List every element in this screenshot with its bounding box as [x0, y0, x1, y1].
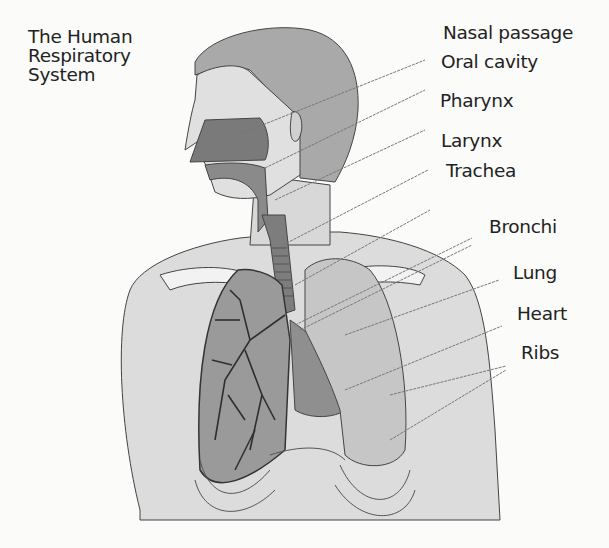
label-trachea: Trachea — [446, 160, 516, 181]
label-nasal-passage: Nasal passage — [443, 22, 573, 43]
label-bronchi: Bronchi — [489, 216, 557, 237]
label-larynx: Larynx — [441, 130, 502, 151]
label-oral-cavity: Oral cavity — [441, 51, 538, 72]
title-line-1: The Human — [28, 27, 132, 46]
label-lung: Lung — [513, 262, 557, 283]
title-line-2: Respiratory — [28, 46, 132, 65]
title-line-3: System — [28, 65, 132, 84]
label-ribs: Ribs — [521, 342, 559, 363]
label-pharynx: Pharynx — [440, 90, 513, 111]
ear — [290, 112, 301, 142]
label-heart: Heart — [517, 303, 567, 324]
diagram-title: The Human Respiratory System — [28, 27, 132, 84]
